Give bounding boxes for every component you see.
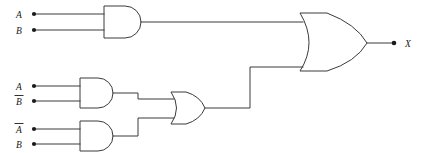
wire-ormid-to-or-out: [205, 67, 303, 108]
and-gate-3: [80, 121, 113, 151]
and-gate-1-body: [104, 6, 141, 38]
circuit-canvas: A B A B A B X: [0, 0, 425, 153]
or-gate-output: [300, 13, 367, 71]
and-gate-2-body: [80, 78, 113, 108]
and-gate-2: [80, 78, 113, 108]
terminal-dot-input-a3bar: [32, 127, 36, 131]
input-label-a2: A: [15, 82, 22, 92]
wire-and3-to-ormid: [113, 118, 174, 136]
or-gate-output-body: [300, 13, 367, 71]
or-gate-mid: [171, 92, 205, 124]
terminal-dot-input-b1: [32, 28, 36, 32]
wire-and2-to-ormid: [113, 93, 174, 99]
input-label-b2bar: B: [16, 97, 22, 107]
input-label-b1: B: [16, 26, 22, 36]
input-label-a1: A: [15, 10, 22, 20]
terminal-dot-input-a2: [32, 84, 36, 88]
terminal-dot-input-b2bar: [32, 99, 36, 103]
terminal-dot-output-x: [392, 41, 397, 46]
output-label-x: X: [404, 39, 412, 49]
and-gate-3-body: [80, 121, 113, 151]
and-gate-1: [104, 6, 141, 38]
input-label-b3: B: [16, 140, 22, 150]
terminal-dot-input-b3: [32, 142, 36, 146]
input-label-a3bar: A: [15, 125, 22, 135]
or-gate-mid-body: [171, 92, 205, 124]
terminal-dot-input-a1: [32, 12, 36, 16]
logic-circuit-figure: A B A B A B X: [0, 0, 425, 153]
